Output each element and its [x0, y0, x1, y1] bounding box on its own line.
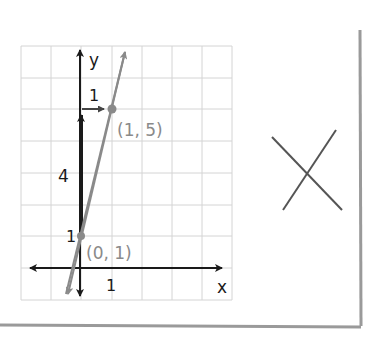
rise-label: 4: [58, 166, 69, 186]
x-axis-label: x: [217, 277, 227, 297]
y-axis-label: y: [89, 50, 99, 70]
worksheet-card: y x 1 4 1 1 (1, 5) (0, 1): [0, 0, 369, 350]
point-label-1-5: (1, 5): [117, 120, 163, 140]
run-label: 1: [89, 86, 99, 105]
incorrect-x-icon: [272, 130, 342, 210]
point-0-1: [77, 232, 85, 240]
point-1-5: [108, 105, 117, 114]
paper-shadow: [0, 30, 361, 327]
x-tick-1: 1: [106, 276, 116, 295]
point-label-0-1: (0, 1): [86, 243, 132, 263]
y-tick-1: 1: [66, 227, 76, 246]
